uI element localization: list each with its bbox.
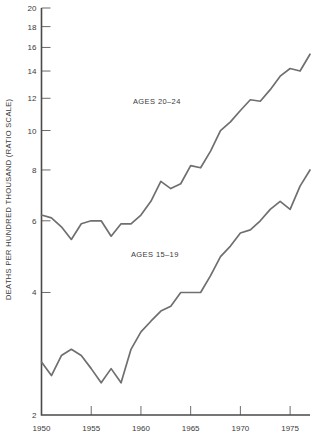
x-axis-ticks: 195019551960196519701975 — [33, 406, 300, 433]
x-tick-label-1950: 1950 — [33, 424, 51, 433]
series-line-1 — [42, 170, 311, 383]
x-tick-label-1955: 1955 — [82, 424, 100, 433]
series-line-0 — [42, 54, 311, 239]
series-annotations: AGES 20–24AGES 15–19 — [131, 97, 181, 258]
y-tick-label-16: 16 — [28, 43, 37, 52]
y-tick-label-2: 2 — [32, 411, 37, 420]
series-label-0: AGES 20–24 — [133, 97, 181, 106]
axis-lines — [42, 8, 311, 415]
y-axis-ticks: 2468101214161820 — [28, 4, 51, 420]
x-tick-label-1970: 1970 — [231, 424, 249, 433]
y-tick-label-6: 6 — [32, 217, 37, 226]
y-tick-label-4: 4 — [32, 288, 37, 297]
x-tick-label-1960: 1960 — [132, 424, 150, 433]
y-tick-label-8: 8 — [32, 166, 37, 175]
x-tick-label-1965: 1965 — [182, 424, 200, 433]
y-tick-label-18: 18 — [28, 23, 37, 32]
line-chart: 2468101214161820 19501955196019651970197… — [0, 0, 319, 446]
y-tick-label-14: 14 — [28, 67, 37, 76]
y-tick-label-20: 20 — [28, 4, 37, 13]
chart-canvas: 2468101214161820 19501955196019651970197… — [0, 0, 319, 446]
x-tick-label-1975: 1975 — [281, 424, 299, 433]
y-axis-title: DEATHS PER HUNDRED THOUSAND (RATIO SCALE… — [4, 98, 13, 300]
series-label-1: AGES 15–19 — [131, 250, 179, 259]
y-tick-label-12: 12 — [28, 94, 37, 103]
y-tick-label-10: 10 — [28, 127, 37, 136]
